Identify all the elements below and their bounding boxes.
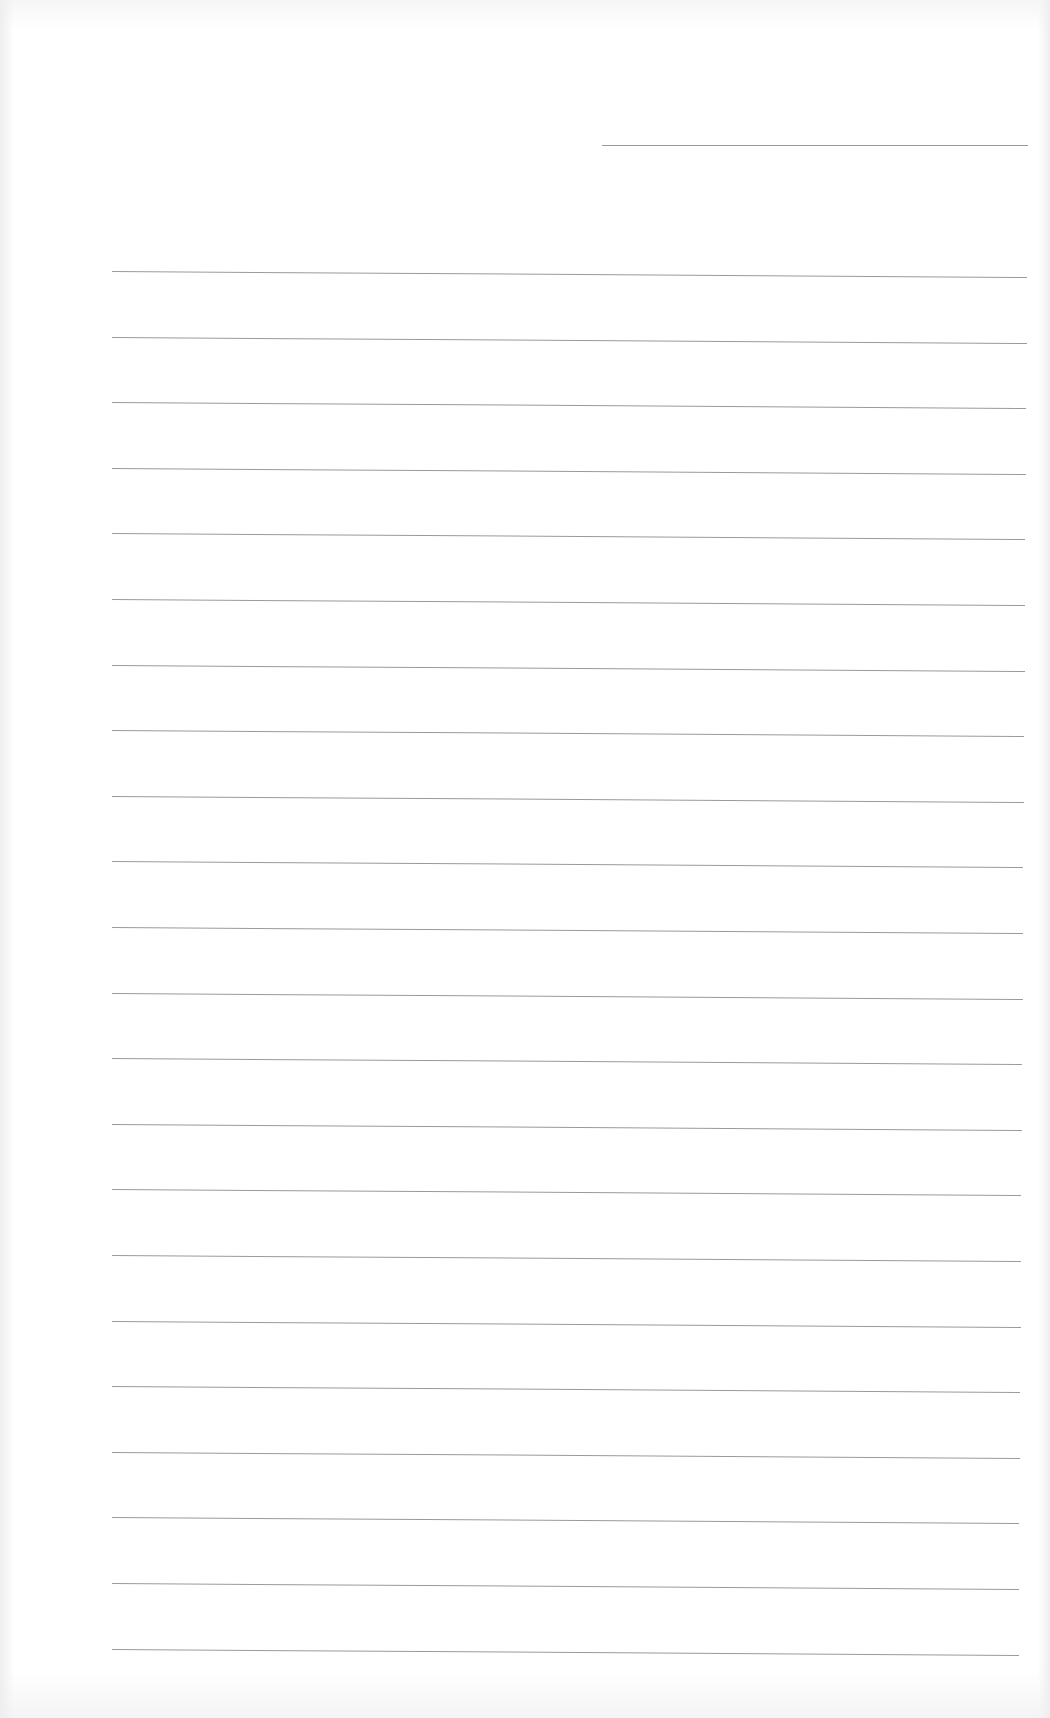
- ruled-line: [112, 402, 1026, 409]
- ruled-line: [112, 599, 1025, 606]
- ruled-line: [112, 1583, 1019, 1590]
- ruled-line: [112, 1321, 1021, 1328]
- ruled-line: [112, 1124, 1022, 1131]
- ruled-line: [112, 1386, 1020, 1393]
- ruled-line: [112, 533, 1025, 540]
- ruled-line: [112, 1517, 1019, 1524]
- ruled-line: [112, 337, 1027, 344]
- ruled-line: [112, 730, 1024, 737]
- ruled-line: [112, 1649, 1019, 1656]
- date-line: [602, 145, 1028, 146]
- ruled-line: [112, 665, 1025, 672]
- ruled-line: [112, 993, 1023, 1000]
- ruled-line: [112, 1058, 1022, 1065]
- page-edge-shadow-left: [0, 0, 14, 1718]
- ruled-line: [112, 271, 1027, 278]
- ruled-line: [112, 1452, 1020, 1459]
- ruled-line: [112, 1255, 1021, 1262]
- page-edge-shadow-right: [1038, 0, 1050, 1718]
- ruled-line: [112, 861, 1023, 868]
- notebook-page: [0, 0, 1050, 1718]
- ruled-line: [112, 927, 1023, 934]
- ruled-line: [112, 468, 1026, 475]
- ruled-line: [112, 796, 1024, 803]
- ruled-line: [112, 1189, 1021, 1196]
